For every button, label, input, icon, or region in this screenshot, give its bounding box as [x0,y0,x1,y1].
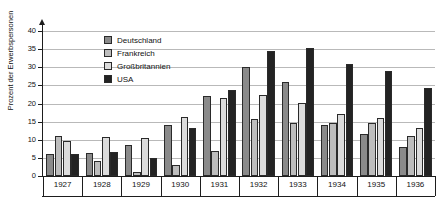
bars-area [43,31,435,176]
legend-swatch-grossbritannien [104,62,112,70]
bar-frankreich-1929 [133,172,141,176]
bar-deutschland-1934 [321,125,329,176]
legend-item-grossbritannien: Großbritannien [104,60,234,72]
y-tick [38,176,42,177]
y-tick-label: 0 [32,172,36,180]
legend: Deutschland Frankreich Großbritannien US… [104,34,234,86]
y-tick [38,67,42,68]
bar-deutschland-1931 [203,96,211,176]
bar-usa-1928 [110,152,118,176]
bar-group [278,31,317,176]
legend-swatch-frankreich [104,49,112,57]
y-tick-label: 10 [28,136,36,144]
bar-usa-1934 [346,64,354,176]
y-tick-label: 5 [32,154,36,162]
bar-usa-1927 [71,154,79,176]
x-group-separator [82,176,83,196]
legend-label-grossbritannien: Großbritannien [117,62,170,71]
legend-swatch-deutschland [104,36,112,44]
y-tick-label: 35 [28,45,36,53]
bar-großbritannien-1935 [377,118,385,176]
bar-usa-1932 [267,51,275,176]
bar-großbritannien-1928 [102,137,110,176]
bar-deutschland-1935 [360,134,368,176]
y-tick [38,140,42,141]
y-tick-label: 40 [28,27,36,35]
x-group-separator [396,176,397,196]
legend-label-frankreich: Frankreich [117,49,155,58]
bar-deutschland-1930 [164,125,172,176]
bar-frankreich-1927 [55,136,63,176]
bar-deutschland-1936 [399,147,407,176]
y-tick [38,104,42,105]
bar-deutschland-1933 [282,82,290,176]
y-tick [38,122,42,123]
x-tick-label: 1936 [392,180,438,189]
bar-group [43,31,82,176]
bar-frankreich-1930 [172,165,180,176]
x-group-separator [161,176,162,196]
y-tick-label: 30 [28,63,36,71]
bar-usa-1931 [228,90,236,176]
bar-frankreich-1936 [407,136,415,176]
bar-deutschland-1927 [46,154,54,176]
y-axis-label: Prozent der Erwerbspersonen [6,0,15,131]
legend-label-deutschland: Deutschland [117,36,161,45]
bar-frankreich-1931 [211,151,219,176]
legend-item-usa: USA [104,73,234,85]
bar-usa-1936 [424,88,432,176]
legend-swatch-usa [104,75,112,83]
y-tick-label: 15 [28,118,36,126]
bar-usa-1935 [385,71,393,176]
bar-group [239,31,278,176]
x-group-separator [43,176,44,196]
bar-group [396,31,435,176]
bar-großbritannien-1934 [337,114,345,176]
x-group-separator [435,176,436,196]
bar-group [317,31,356,176]
y-tick-label: 25 [28,81,36,89]
x-axis-bottom-line [42,196,435,197]
bar-deutschland-1928 [86,153,94,176]
bar-großbritannien-1930 [181,117,189,176]
bar-großbritannien-1936 [416,128,424,176]
bar-großbritannien-1931 [220,98,228,176]
legend-label-usa: USA [117,75,133,84]
bar-großbritannien-1927 [63,141,71,176]
x-group-separator [278,176,279,196]
y-tick [38,49,42,50]
legend-item-frankreich: Frankreich [104,47,234,59]
bar-frankreich-1933 [290,123,298,176]
y-tick [38,31,42,32]
x-group-separator [200,176,201,196]
bar-usa-1933 [306,48,314,176]
bar-frankreich-1932 [251,119,259,176]
bar-großbritannien-1933 [298,103,306,176]
bar-usa-1929 [150,158,158,176]
bar-frankreich-1928 [94,161,102,176]
unemployment-bar-chart: Prozent der Erwerbspersonen 051015202530… [0,0,443,203]
x-group-separator [239,176,240,196]
y-tick [38,158,42,159]
bar-usa-1930 [189,128,197,176]
bar-group [357,31,396,176]
x-group-separator [317,176,318,196]
bar-deutschland-1932 [242,67,250,176]
y-tick [38,85,42,86]
bar-großbritannien-1932 [259,95,267,176]
y-tick-label: 20 [28,100,36,108]
legend-item-deutschland: Deutschland [104,34,234,46]
bar-frankreich-1935 [368,123,376,176]
x-group-separator [121,176,122,196]
bar-frankreich-1934 [329,123,337,176]
bar-deutschland-1929 [125,145,133,176]
bar-großbritannien-1929 [141,138,149,176]
x-group-separator [357,176,358,196]
